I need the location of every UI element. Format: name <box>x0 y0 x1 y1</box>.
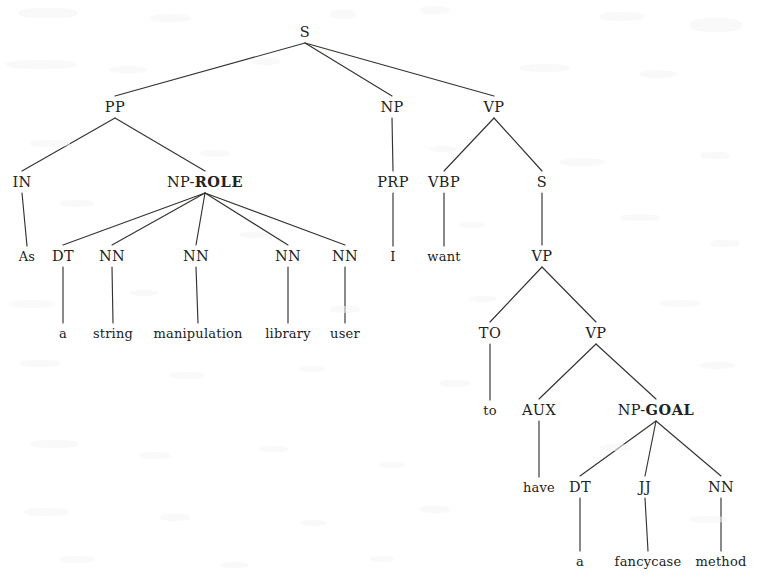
tree-node-role-suffix: ROLE <box>195 173 243 190</box>
tree-node-label: a <box>576 554 584 569</box>
tree-node-label: As <box>19 249 35 264</box>
tree-node-leaf-as: As <box>19 250 35 263</box>
tree-node-leaf-fancycase: fancycase <box>615 555 682 568</box>
tree-node-label: have <box>523 480 555 495</box>
tree-node-label: to <box>483 403 496 418</box>
tree-node-in: IN <box>12 175 31 190</box>
tree-node-to: TO <box>479 326 501 341</box>
tree-node-label: NN <box>183 248 209 264</box>
tree-node-label: a <box>59 326 67 341</box>
tree-node-np-subj: NP <box>380 100 403 115</box>
tree-node-nn5: NN <box>708 480 734 495</box>
tree-node-label: NN <box>275 248 301 264</box>
tree-node-label: PRP <box>377 174 409 190</box>
tree-node-label: VP <box>531 248 552 264</box>
tree-node-leaf-i: I <box>390 250 395 263</box>
tree-node-leaf-to: to <box>483 404 496 417</box>
tree-node-s-root: S <box>300 25 310 40</box>
parse-tree-nodes: SPPNPVPINNP-ROLEPRPVBPSAsDTNNNNNNNNIwant… <box>0 0 761 584</box>
tree-node-label: string <box>93 326 133 341</box>
tree-node-dt2: DT <box>569 480 591 495</box>
tree-node-label: S <box>537 174 547 190</box>
tree-node-label: method <box>696 554 747 569</box>
tree-node-label: IN <box>12 174 31 190</box>
tree-node-label: fancycase <box>615 554 682 569</box>
tree-node-leaf-method: method <box>696 555 747 568</box>
tree-node-label: TO <box>479 325 501 341</box>
tree-node-s-embedded: S <box>537 175 547 190</box>
tree-node-role-suffix: GOAL <box>645 401 694 418</box>
tree-node-label: library <box>265 326 311 341</box>
tree-node-vp-main: VP <box>483 100 504 115</box>
tree-node-leaf-string: string <box>93 327 133 340</box>
tree-node-vbp: VBP <box>428 175 460 190</box>
tree-node-label: NP- <box>167 174 195 190</box>
tree-node-label: NN <box>332 248 358 264</box>
tree-node-leaf-have: have <box>523 481 555 494</box>
tree-node-label: DT <box>52 248 74 264</box>
tree-node-leaf-a2: a <box>576 555 584 568</box>
tree-node-label: DT <box>569 479 591 495</box>
tree-node-pp: PP <box>105 100 125 115</box>
tree-node-leaf-a1: a <box>59 327 67 340</box>
tree-node-label: PP <box>105 99 125 115</box>
tree-node-label: manipulation <box>153 326 242 341</box>
tree-node-nn2: NN <box>183 249 209 264</box>
tree-node-label: AUX <box>522 402 556 418</box>
tree-node-np-goal: NP-GOAL <box>618 403 695 418</box>
tree-node-label: want <box>427 249 460 264</box>
tree-node-leaf-library: library <box>265 327 311 340</box>
tree-node-vp-inner: VP <box>531 249 552 264</box>
tree-node-leaf-want: want <box>427 250 460 263</box>
tree-node-label: JJ <box>639 479 651 495</box>
tree-node-vp-deep: VP <box>585 326 606 341</box>
tree-node-jj: JJ <box>639 480 651 495</box>
tree-node-nn4: NN <box>332 249 358 264</box>
tree-node-dt1: DT <box>52 249 74 264</box>
tree-node-label: VP <box>483 99 504 115</box>
tree-node-label: S <box>300 24 310 40</box>
tree-node-label: VP <box>585 325 606 341</box>
tree-node-label: user <box>330 326 360 341</box>
tree-node-nn3: NN <box>275 249 301 264</box>
tree-node-label: NN <box>99 248 125 264</box>
tree-node-label: NP- <box>618 402 646 418</box>
tree-node-label: NN <box>708 479 734 495</box>
tree-node-leaf-user: user <box>330 327 360 340</box>
tree-node-aux: AUX <box>522 403 556 418</box>
tree-node-label: VBP <box>428 174 460 190</box>
tree-node-np-role: NP-ROLE <box>167 175 243 190</box>
tree-node-nn1: NN <box>99 249 125 264</box>
tree-node-leaf-manip: manipulation <box>153 327 242 340</box>
tree-node-label: NP <box>380 99 403 115</box>
tree-node-prp: PRP <box>377 175 409 190</box>
tree-node-label: I <box>390 249 395 264</box>
